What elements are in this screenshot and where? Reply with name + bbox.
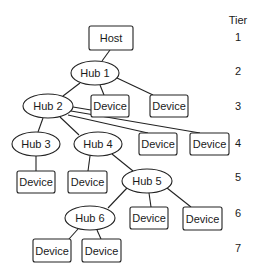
device-node-host: Host: [89, 26, 133, 50]
edge-host-to-hub1: [102, 50, 110, 61]
edge-hub1-to-hub2: [63, 83, 80, 96]
device-node-dev5a: Device: [17, 171, 55, 193]
edge-hub5-to-dev6b: [167, 188, 191, 207]
node-label: Hub 2: [33, 100, 62, 112]
hub-node-hub1: Hub 1: [71, 61, 119, 85]
node-label: Device: [152, 100, 186, 112]
node-label: Device: [141, 138, 175, 150]
device-node-dev7b: Device: [82, 239, 121, 262]
device-node-dev5b: Device: [68, 171, 107, 193]
hub-node-hub2: Hub 2: [23, 94, 73, 118]
edge-hub1-to-dev3a: [100, 85, 104, 95]
node-label: Device: [93, 100, 127, 112]
device-node-dev4a: Device: [139, 133, 177, 155]
hub-node-hub4: Hub 4: [74, 132, 122, 156]
hub-node-hub3: Hub 3: [12, 132, 60, 156]
tier-labels: Tier 1234567: [229, 14, 248, 254]
tier-number-6: 6: [235, 207, 241, 219]
device-node-dev7a: Device: [33, 239, 71, 262]
usb-tier-topology-diagram: HostHub 1Hub 2DeviceDeviceHub 3Hub 4Devi…: [0, 0, 253, 278]
node-label: Device: [85, 245, 119, 257]
device-node-dev4b: Device: [190, 133, 229, 155]
tier-number-4: 4: [235, 137, 241, 149]
tier-header: Tier: [229, 14, 248, 26]
node-label: Hub 4: [83, 138, 112, 150]
device-node-dev3b: Device: [150, 95, 188, 117]
edge-hub2-to-dev3a: [73, 107, 91, 110]
node-label: Host: [100, 32, 123, 44]
edge-hub5-to-hub6: [108, 188, 127, 208]
node-label: Hub 3: [21, 138, 50, 150]
hub-node-hub5: Hub 5: [122, 169, 172, 193]
device-node-dev3a: Device: [91, 95, 129, 117]
tier-number-7: 7: [235, 242, 241, 254]
edge-hub2-to-hub3: [38, 118, 43, 132]
edge-hub5-to-dev6a: [149, 193, 151, 207]
node-label: Device: [71, 176, 105, 188]
tier-number-5: 5: [235, 171, 241, 183]
topology-nodes: HostHub 1Hub 2DeviceDeviceHub 3Hub 4Devi…: [12, 26, 229, 262]
tier-number-1: 1: [235, 31, 241, 43]
node-label: Device: [193, 138, 227, 150]
node-label: Device: [19, 176, 53, 188]
tier-number-3: 3: [235, 100, 241, 112]
device-node-dev6b: Device: [183, 207, 222, 230]
edge-hub4-to-dev5b: [88, 156, 90, 171]
edge-hub6-to-dev7a: [69, 229, 78, 239]
tier-number-2: 2: [235, 65, 241, 77]
edge-hub1-to-dev3b: [117, 78, 153, 95]
edge-hub4-to-hub5: [112, 154, 133, 171]
node-label: Hub 5: [132, 175, 161, 187]
edge-hub6-to-dev7b: [97, 230, 101, 239]
edge-hub2-to-hub4: [60, 117, 79, 135]
node-label: Device: [35, 245, 69, 257]
node-label: Hub 6: [75, 212, 104, 224]
hub-node-hub6: Hub 6: [65, 206, 115, 230]
node-label: Device: [132, 212, 166, 224]
node-label: Device: [186, 213, 220, 225]
device-node-dev6a: Device: [130, 207, 168, 229]
node-label: Hub 1: [80, 67, 109, 79]
